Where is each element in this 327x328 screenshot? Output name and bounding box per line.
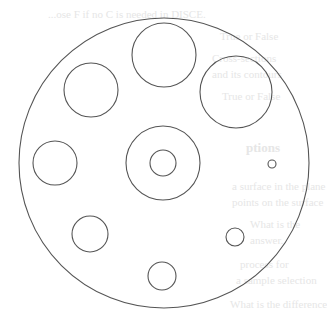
inner-circle-center-inner [150,150,176,176]
outer-circle [19,18,309,308]
inner-circles [33,23,276,290]
inner-circle-bottom [148,262,176,290]
inner-circle-right-small [268,160,276,168]
inner-circle-lower-right [226,228,244,246]
inner-circle-center-outer [126,126,200,200]
inner-circle-lower-left [72,216,108,252]
inner-circle-upper-right [200,56,272,128]
inner-circle-left [33,141,77,185]
inner-circle-upper-left [64,63,118,117]
inner-circle-top [132,23,196,87]
